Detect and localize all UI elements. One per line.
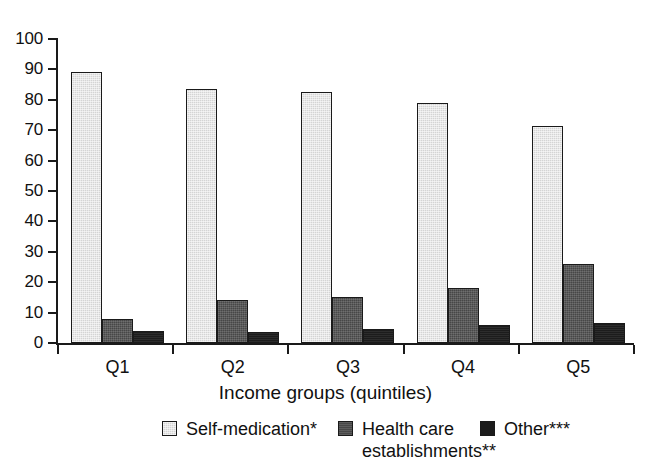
legend-label: Other*** — [504, 418, 570, 440]
y-axis-tick-label: 30 — [0, 243, 43, 260]
x-axis-tick — [518, 345, 520, 354]
legend-swatch-icon — [480, 421, 495, 436]
y-axis-tick-label: 0 — [0, 334, 43, 351]
x-axis-group-label-q5: Q5 — [538, 357, 618, 377]
legend-item-1: Health care establishments** — [338, 418, 496, 462]
x-axis-group-label-q1: Q1 — [78, 357, 158, 377]
y-axis-tick — [48, 220, 57, 222]
x-axis-group-label-q2: Q2 — [193, 357, 273, 377]
y-axis-tick — [48, 190, 57, 192]
bar-q4-series-0 — [417, 103, 448, 343]
y-axis-tick — [48, 342, 57, 344]
y-axis-tick — [48, 38, 57, 40]
y-axis-tick-label: 90 — [0, 60, 43, 77]
bar-q1-series-0 — [71, 72, 102, 343]
legend-swatch-icon — [162, 421, 177, 436]
y-axis-tick-label: 100 — [0, 30, 43, 47]
y-axis-tick — [48, 129, 57, 131]
plot-area — [57, 39, 633, 343]
y-axis-tick-label: 80 — [0, 91, 43, 108]
x-axis-tick — [287, 345, 289, 354]
y-axis-tick — [48, 281, 57, 283]
bar-q5-series-0 — [532, 126, 563, 343]
bar-q5-series-1 — [563, 264, 594, 343]
x-axis-tick — [172, 345, 174, 354]
bar-q2-series-1 — [217, 300, 248, 343]
x-axis-tick — [633, 345, 635, 354]
bar-q1-series-2 — [133, 331, 164, 343]
bar-q4-series-1 — [448, 288, 479, 343]
bar-q2-series-2 — [248, 332, 279, 343]
legend-label: Self-medication* — [186, 418, 317, 440]
y-axis-tick-label: 10 — [0, 304, 43, 321]
x-axis-title: Income groups (quintiles) — [0, 382, 651, 404]
y-axis-tick-label: 70 — [0, 121, 43, 138]
bar-chart-figure: 0102030405060708090100 Q1Q2Q3Q4Q5 Income… — [0, 0, 651, 470]
y-axis-tick-label: 40 — [0, 212, 43, 229]
legend-swatch-icon — [338, 421, 353, 436]
chart-legend: Self-medication*Health care establishmen… — [0, 418, 651, 470]
bar-q3-series-1 — [332, 297, 363, 343]
bar-q4-series-2 — [479, 325, 510, 343]
x-axis-group-label-q3: Q3 — [308, 357, 388, 377]
y-axis-tick — [48, 312, 57, 314]
bar-q2-series-0 — [186, 89, 217, 343]
y-axis-tick — [48, 251, 57, 253]
x-axis-line — [56, 343, 634, 345]
legend-label: Health care establishments** — [362, 418, 496, 462]
x-axis-tick — [403, 345, 405, 354]
y-axis-tick-label: 60 — [0, 152, 43, 169]
bar-q1-series-1 — [102, 319, 133, 343]
y-axis-tick — [48, 68, 57, 70]
x-axis-tick — [57, 345, 59, 354]
bar-q3-series-0 — [301, 92, 332, 343]
y-axis-tick-label: 20 — [0, 273, 43, 290]
x-axis-group-label-q4: Q4 — [423, 357, 503, 377]
bar-q3-series-2 — [363, 329, 394, 343]
y-axis-tick-label: 50 — [0, 182, 43, 199]
y-axis-tick — [48, 160, 57, 162]
y-axis-tick — [48, 99, 57, 101]
legend-item-2: Other*** — [480, 418, 570, 440]
bar-q5-series-2 — [594, 323, 625, 343]
legend-item-0: Self-medication* — [162, 418, 317, 440]
